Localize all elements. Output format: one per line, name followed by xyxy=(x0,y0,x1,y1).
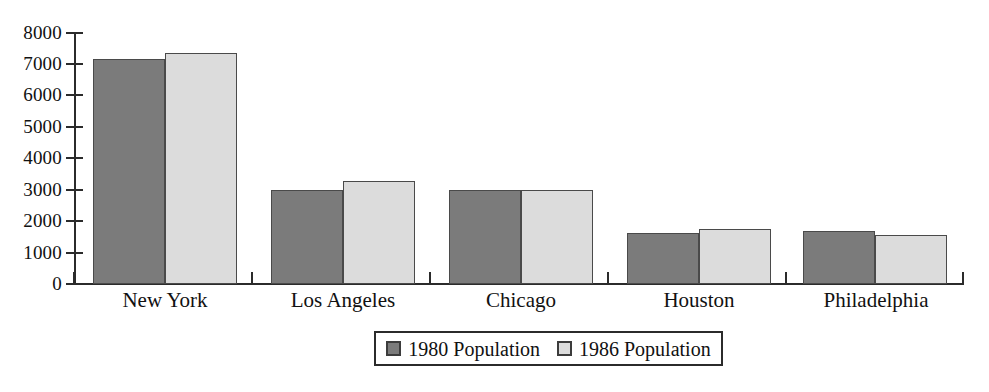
chart-legend: 1980 Population 1986 Population xyxy=(374,331,723,366)
y-axis-tick xyxy=(66,32,83,34)
x-axis-category-label: Houston xyxy=(629,288,769,312)
y-axis-tick-label-holder: 3000 xyxy=(6,180,62,199)
bar-philadelphia-1980 xyxy=(803,231,875,284)
y-axis-tick-label-holder: 5000 xyxy=(6,117,62,136)
y-axis-tick-label-holder: 6000 xyxy=(6,85,62,104)
y-axis-tick-label: 7000 xyxy=(6,54,62,73)
plot-area: 8000 7000 6000 5000 4000 3000 2000 1000 xyxy=(0,0,989,320)
y-axis-tick-label: 4000 xyxy=(6,148,62,167)
bar-chicago-1986 xyxy=(521,190,593,284)
y-axis-tick-label-holder: 4000 xyxy=(6,148,62,167)
y-axis-tick-label: 1000 xyxy=(6,243,62,262)
y-axis-tick-label-holder: 8000 xyxy=(6,23,62,42)
x-axis-tick xyxy=(73,272,75,285)
y-axis-tick xyxy=(66,94,83,96)
legend-swatch-icon xyxy=(557,341,572,356)
x-axis-tick xyxy=(251,272,253,285)
legend-label: 1986 Population xyxy=(579,339,711,359)
y-axis-tick-label-holder: 2000 xyxy=(6,211,62,230)
y-axis-tick-label-holder: 1000 xyxy=(6,243,62,262)
bar-houston-1986 xyxy=(699,229,771,284)
x-axis-category-label: New York xyxy=(95,288,235,312)
y-axis-tick-label: 2000 xyxy=(6,211,62,230)
bar-chart: 8000 7000 6000 5000 4000 3000 2000 1000 xyxy=(0,0,989,392)
y-axis-tick xyxy=(66,157,83,159)
x-axis-category-label: Philadelphia xyxy=(805,288,947,312)
x-axis-category-label: Los Angeles xyxy=(273,288,413,312)
legend-entry-1980: 1980 Population xyxy=(386,339,540,359)
bar-chicago-1980 xyxy=(449,190,521,284)
legend-entry-1986: 1986 Population xyxy=(557,339,711,359)
bar-new-york-1980 xyxy=(93,59,165,284)
bar-los-angeles-1986 xyxy=(343,181,415,284)
legend-label: 1980 Population xyxy=(408,339,540,359)
bar-new-york-1986 xyxy=(165,53,237,284)
bar-houston-1980 xyxy=(627,233,699,284)
y-axis-tick xyxy=(66,189,83,191)
x-axis-tick xyxy=(607,272,609,285)
y-axis-tick-label: 6000 xyxy=(6,85,62,104)
x-axis-category-label: Chicago xyxy=(451,288,591,312)
x-axis-tick xyxy=(962,272,964,285)
y-axis-tick-label: 3000 xyxy=(6,180,62,199)
y-axis-tick-label-holder: 0 xyxy=(6,274,62,293)
y-axis-tick xyxy=(66,63,83,65)
y-axis-tick-label: 0 xyxy=(6,274,62,293)
bar-philadelphia-1986 xyxy=(875,235,947,284)
y-axis-tick xyxy=(66,252,83,254)
legend-swatch-icon xyxy=(386,341,401,356)
x-axis-tick xyxy=(785,272,787,285)
y-axis-tick-label: 8000 xyxy=(6,23,62,42)
y-axis-tick xyxy=(66,220,83,222)
y-axis-tick-label-holder: 7000 xyxy=(6,54,62,73)
bar-los-angeles-1980 xyxy=(271,190,343,284)
y-axis-tick-label: 5000 xyxy=(6,117,62,136)
y-axis-tick xyxy=(66,126,83,128)
x-axis-tick xyxy=(429,272,431,285)
